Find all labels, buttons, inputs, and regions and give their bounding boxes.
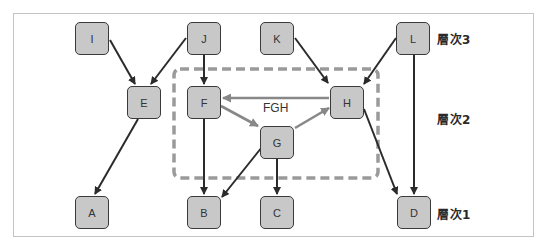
node-c: C: [260, 196, 294, 229]
node-label: A: [88, 207, 95, 219]
node-label: J: [201, 33, 207, 45]
node-j: J: [187, 22, 221, 55]
node-label: B: [200, 207, 207, 219]
node-k: K: [260, 22, 294, 55]
node-label: F: [201, 97, 208, 109]
node-label: G: [273, 137, 282, 149]
node-g: G: [260, 126, 294, 159]
node-label: L: [410, 33, 416, 45]
node-e: E: [127, 86, 161, 119]
node-b: B: [187, 196, 221, 229]
edge-i-e: [110, 40, 135, 84]
node-h: H: [330, 86, 364, 119]
node-label: C: [273, 207, 281, 219]
node-a: A: [75, 196, 109, 229]
edge-f-g: [221, 106, 258, 126]
node-label: I: [90, 33, 93, 45]
edge-k-h: [295, 38, 328, 83]
edge-e-a: [95, 119, 138, 194]
level-label-3: 層次3: [437, 30, 471, 47]
level-label-1: 層次1: [437, 205, 471, 222]
edge-j-e: [151, 38, 186, 84]
node-label: K: [273, 33, 280, 45]
node-label: D: [410, 207, 418, 219]
group-label-fgh: FGH: [263, 101, 288, 115]
node-label: E: [140, 97, 147, 109]
edge-g-h: [295, 108, 329, 128]
node-label: H: [343, 97, 351, 109]
level-label-2: 層次2: [437, 110, 471, 127]
node-i: I: [75, 22, 109, 55]
edge-h-d: [364, 109, 397, 194]
node-l: L: [396, 22, 430, 55]
node-f: F: [187, 86, 221, 119]
edge-g-b: [222, 147, 262, 197]
edge-l-h: [364, 38, 396, 84]
node-d: D: [397, 196, 431, 229]
